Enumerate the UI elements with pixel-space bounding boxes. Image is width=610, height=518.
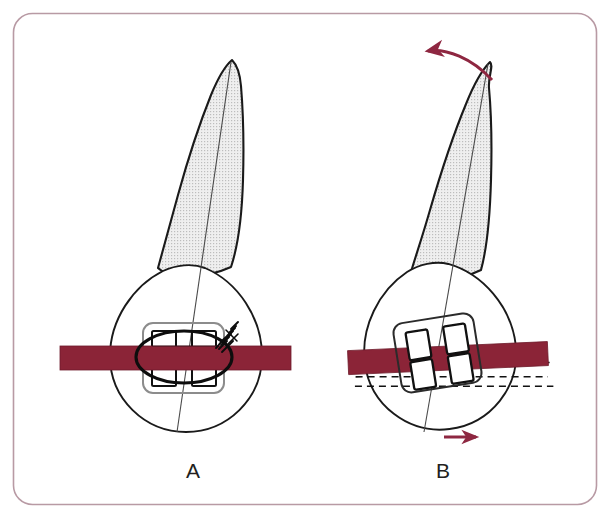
bracket-wing-b-top-right bbox=[443, 323, 469, 354]
bracket-wing-b-bottom-left bbox=[410, 359, 436, 390]
archwire-a bbox=[60, 346, 291, 370]
figure-root: A bbox=[0, 0, 610, 518]
bracket-wing-b-top-left bbox=[405, 329, 431, 360]
orthodontic-figure-svg: A bbox=[0, 0, 610, 518]
panel-label-a: A bbox=[186, 459, 200, 482]
figure-border bbox=[14, 14, 597, 505]
bracket-wing-b-bottom-right bbox=[448, 353, 474, 384]
panel-label-b: B bbox=[436, 459, 450, 482]
